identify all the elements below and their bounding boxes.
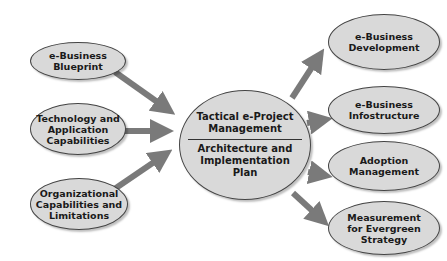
node-tactical-eproject-management: Tactical e-Project Management Architectu… xyxy=(179,90,311,200)
node-ebusiness-development: e-Business Development xyxy=(328,14,440,70)
center-bottom-line: Implementation xyxy=(200,155,290,167)
node-label-line: Development xyxy=(348,42,419,53)
node-label-line: e-Business xyxy=(49,50,107,61)
center-top-line: Tactical e-Project xyxy=(197,111,294,123)
arrow-center-to-development xyxy=(292,61,316,98)
node-label-line: Application xyxy=(48,124,109,135)
node-label-line: Strategy xyxy=(361,234,407,245)
node-ebusiness-blueprint: e-Business Blueprint xyxy=(30,42,126,80)
node-label-line: Adoption xyxy=(360,155,409,166)
center-divider xyxy=(188,139,302,140)
node-label-line: Capabilities xyxy=(46,135,109,146)
arrow-center-to-measurement xyxy=(293,193,318,216)
center-bottom-line: Architecture and xyxy=(198,143,293,155)
node-label-line: Infostructure xyxy=(349,110,420,121)
node-label-line: Capabilities and xyxy=(36,199,122,210)
arrow-center-to-infostructure xyxy=(307,121,318,123)
node-label-line: for Evergreen xyxy=(347,223,421,234)
node-label-line: Organizational xyxy=(40,188,119,199)
node-label-line: Limitations xyxy=(49,210,109,221)
arrow-center-to-adoption xyxy=(308,172,318,174)
node-organizational-capabilities: Organizational Capabilities and Limitati… xyxy=(30,178,128,230)
arrow-organizational-to-center xyxy=(113,158,160,190)
node-label-line: Measurement xyxy=(347,212,421,223)
node-label-line: Technology and xyxy=(36,113,119,124)
node-ebusiness-infostructure: e-Business Infostructure xyxy=(328,86,440,134)
arrow-blueprint-to-center xyxy=(115,72,163,106)
node-measurement-evergreen: Measurement for Evergreen Strategy xyxy=(328,201,440,255)
node-label-line: e-Business xyxy=(355,31,413,42)
center-bottom-line: Plan xyxy=(233,167,258,179)
node-technology-capabilities: Technology and Application Capabilities xyxy=(30,103,126,155)
center-top-line: Management xyxy=(208,123,282,135)
node-label-line: Management xyxy=(349,166,419,177)
node-adoption-management: Adoption Management xyxy=(328,141,440,191)
node-label-line: Blueprint xyxy=(53,61,103,72)
node-label-line: e-Business xyxy=(355,99,413,110)
